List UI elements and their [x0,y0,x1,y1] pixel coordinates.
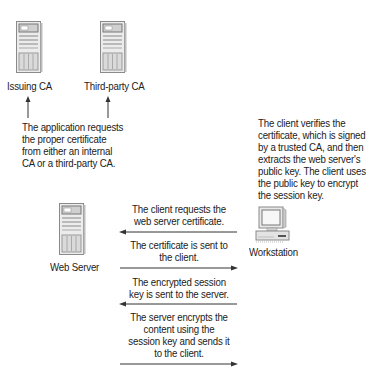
message-4-text: The server encrypts the content using th… [127,311,231,359]
issuing-ca-label: Issuing CA [7,80,52,92]
workstation-icon [254,206,294,244]
arrow-up-to-issuing-ca [23,96,33,118]
third-party-ca-server-icon [99,20,127,74]
message-3-text: The encrypted session key is sent to the… [127,276,231,300]
web-server-label: Web Server [50,261,99,273]
web-server-icon [58,202,86,256]
ca-request-note: The application requests the proper cert… [22,121,123,169]
client-verify-note: The client verifies the certificate, whi… [258,117,366,201]
arrow-to-web-server-1 [119,228,239,236]
arrow-to-workstation-2 [119,264,239,272]
message-2-text: The certificate is sent to the client. [127,239,231,263]
third-party-ca-label: Third-party CA [84,80,144,92]
arrow-to-workstation-4 [119,360,239,368]
workstation-label: Workstation [249,246,298,258]
message-1-text: The client requests the web server certi… [127,203,231,227]
arrow-to-web-server-3 [119,300,239,308]
arrow-up-to-third-party-ca [103,96,113,118]
issuing-ca-server-icon [15,20,43,74]
